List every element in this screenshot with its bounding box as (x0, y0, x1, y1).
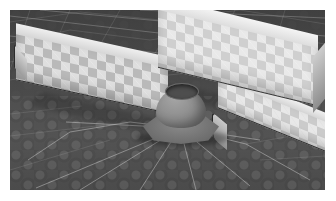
frame-edge-top (0, 0, 336, 10)
wall-left[interactable] (16, 50, 168, 96)
frame-edge-right (325, 0, 336, 201)
frame-edge-bottom (0, 190, 336, 201)
render-viewport (0, 0, 336, 201)
scene-content[interactable] (10, 10, 325, 190)
wall-far-segment[interactable] (218, 102, 325, 138)
pot[interactable] (156, 80, 206, 128)
pot-rim-opening (165, 83, 199, 100)
frame-edge-left (0, 0, 10, 201)
